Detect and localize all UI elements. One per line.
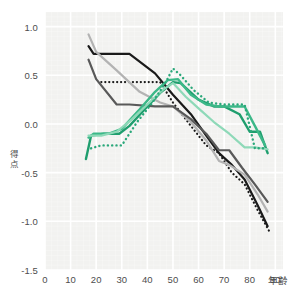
x-tick-0: 0: [42, 274, 47, 285]
x-tick-20: 20: [91, 274, 102, 285]
y-axis-label: 得点: [8, 150, 20, 169]
y-tick-0.5: 0.5: [0, 70, 38, 81]
x-tick-80: 80: [244, 274, 255, 285]
y-tick-1.0: 1.0: [0, 21, 38, 32]
x-tick-10: 10: [65, 274, 76, 285]
x-tick-70: 70: [219, 274, 230, 285]
x-tick-30: 30: [116, 274, 127, 285]
x-tick-60: 60: [193, 274, 204, 285]
y-tick--1.0: -1.0: [0, 216, 38, 227]
x-tick-40: 40: [142, 274, 153, 285]
y-tick-0.0: 0.0: [0, 118, 38, 129]
y-tick--1.5: -1.5: [0, 265, 38, 276]
x-axis-label: 年齢: [268, 273, 288, 287]
line-chart-plot: [0, 0, 302, 301]
x-tick-50: 50: [168, 274, 179, 285]
chart-container: 1.00.50.0-0.5-1.0-1.5 010203040506070809…: [0, 0, 302, 301]
